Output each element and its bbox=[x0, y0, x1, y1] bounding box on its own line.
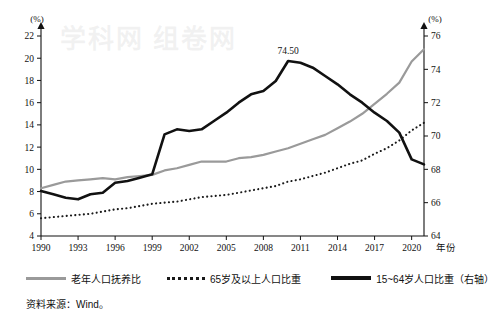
legend-item-65-plus-share: 65岁及以上人口比重 bbox=[167, 271, 301, 286]
y-axis-right-tick-label: 68 bbox=[431, 165, 441, 175]
x-axis-tick-label: 1996 bbox=[106, 243, 125, 253]
y-axis-right-tick-label: 74 bbox=[431, 65, 441, 75]
x-axis-tick-label: 1990 bbox=[32, 243, 51, 253]
y-axis-left-tick-label: 4 bbox=[29, 231, 34, 241]
x-axis-tick-label: 2008 bbox=[254, 243, 273, 253]
x-axis-tick-label: 2014 bbox=[328, 243, 347, 253]
legend-label: 老年人口抚养比 bbox=[71, 271, 141, 286]
series-layer bbox=[41, 49, 424, 218]
y-axis-right-unit-label: (%) bbox=[428, 14, 442, 24]
chart-legend: 老年人口抚养比 65岁及以上人口比重 15~64岁人口比重（右轴） bbox=[24, 270, 464, 286]
y-axis-right-tick-label: 66 bbox=[431, 198, 441, 208]
y-axis-left-tick-label: 14 bbox=[25, 120, 35, 130]
x-axis-tick-label: 1993 bbox=[69, 243, 88, 253]
peak-value-annotation: 74.50 bbox=[277, 46, 299, 56]
source-note: 资料来源：Wind。 bbox=[26, 296, 109, 311]
series-line-2 bbox=[41, 123, 424, 219]
x-axis-tick-label: 2002 bbox=[180, 243, 199, 253]
y-axis-left-tick-label: 6 bbox=[29, 209, 34, 219]
x-axis-name-label: 年份 bbox=[436, 242, 456, 253]
y-axis-right-tick-label: 64 bbox=[431, 231, 441, 241]
legend-item-old-age-dependency: 老年人口抚养比 bbox=[26, 271, 141, 286]
legend-label: 65岁及以上人口比重 bbox=[210, 271, 301, 286]
y-axis-left-tick-label: 16 bbox=[25, 98, 35, 108]
y-axis-right-tick-label: 76 bbox=[431, 31, 441, 41]
y-axis-right-arrow-icon bbox=[420, 22, 427, 29]
x-axis-tick-label: 2020 bbox=[402, 243, 421, 253]
y-axis-left-tick-label: 12 bbox=[25, 143, 35, 153]
y-axis-left-tick-label: 18 bbox=[25, 76, 35, 86]
axes-layer: 46810121416182022(%)64666870727476(%)199… bbox=[25, 14, 457, 253]
y-axis-right-tick-label: 72 bbox=[431, 98, 441, 108]
x-axis-tick-label: 2005 bbox=[217, 243, 236, 253]
x-axis-tick-label: 2017 bbox=[365, 243, 384, 253]
annotation-layer: 74.50 bbox=[277, 46, 299, 56]
legend-swatch-dotted-icon bbox=[167, 277, 205, 280]
legend-swatch-solid-black-icon bbox=[331, 276, 371, 280]
legend-label: 15~64岁人口比重（右轴） bbox=[376, 271, 492, 286]
line-chart-canvas: 46810121416182022(%)64666870727476(%)199… bbox=[0, 0, 481, 268]
y-axis-left-tick-label: 22 bbox=[25, 31, 35, 41]
y-axis-left-tick-label: 10 bbox=[25, 165, 35, 175]
y-axis-left-tick-label: 8 bbox=[29, 187, 34, 197]
y-axis-left-unit-label: (%) bbox=[30, 14, 44, 24]
x-axis-tick-label: 1999 bbox=[143, 243, 162, 253]
y-axis-left-tick-label: 20 bbox=[25, 54, 35, 64]
series-line-1 bbox=[41, 49, 424, 188]
x-axis-tick-label: 2011 bbox=[291, 243, 310, 253]
y-axis-right-tick-label: 70 bbox=[431, 131, 441, 141]
legend-swatch-solid-gray-icon bbox=[26, 277, 66, 280]
legend-item-15-64-share: 15~64岁人口比重（右轴） bbox=[331, 271, 492, 286]
